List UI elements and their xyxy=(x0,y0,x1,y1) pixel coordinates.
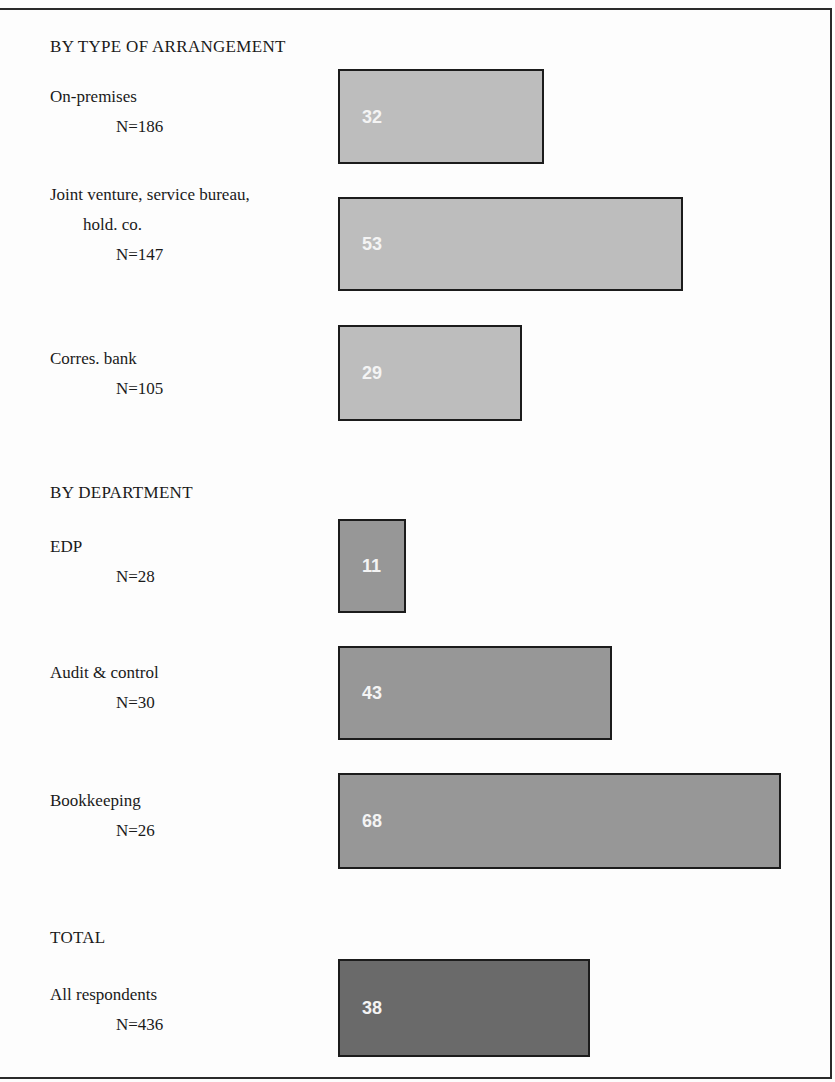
bar-value: 11 xyxy=(362,556,381,577)
category-label: On-premises xyxy=(50,87,137,106)
bar-joint-venture: 53 xyxy=(338,197,683,291)
bar-bookkeeping: 68 xyxy=(338,773,781,869)
category-label-line2: hold. co. xyxy=(50,210,250,240)
section-title-arrangement: BY TYPE OF ARRANGEMENT xyxy=(50,37,286,57)
bar-value: 68 xyxy=(362,811,382,832)
sample-size: N=186 xyxy=(50,112,163,142)
bar-corres-bank: 29 xyxy=(338,325,522,421)
bar-value: 32 xyxy=(362,106,382,127)
bar-edp: 11 xyxy=(338,519,406,613)
row-label-edp: EDP N=28 xyxy=(50,532,155,592)
section-title-department: BY DEPARTMENT xyxy=(50,483,193,503)
sample-size: N=28 xyxy=(50,562,155,592)
category-label: Corres. bank xyxy=(50,349,137,368)
bar-value: 43 xyxy=(362,683,382,704)
category-label: Audit & control xyxy=(50,663,159,682)
row-label-bookkeeping: Bookkeeping N=26 xyxy=(50,786,155,846)
bar-value: 29 xyxy=(362,363,382,384)
category-label: EDP xyxy=(50,537,82,556)
bar-on-premises: 32 xyxy=(338,69,544,164)
section-title-total: TOTAL xyxy=(50,928,106,948)
sample-size: N=105 xyxy=(50,374,163,404)
sample-size: N=26 xyxy=(50,816,155,846)
bar-value: 53 xyxy=(362,234,382,255)
bar-value: 38 xyxy=(362,998,382,1019)
category-label: Joint venture, service bureau, xyxy=(50,185,250,204)
category-label: All respondents xyxy=(50,985,157,1004)
bar-audit-control: 43 xyxy=(338,646,612,740)
sample-size: N=147 xyxy=(50,240,250,270)
category-label: Bookkeeping xyxy=(50,791,141,810)
sample-size: N=436 xyxy=(50,1010,163,1040)
row-label-on-premises: On-premises N=186 xyxy=(50,82,163,142)
row-label-joint-venture: Joint venture, service bureau, hold. co.… xyxy=(50,180,250,270)
row-label-all-respondents: All respondents N=436 xyxy=(50,980,163,1040)
bar-all-respondents: 38 xyxy=(338,959,590,1057)
row-label-audit-control: Audit & control N=30 xyxy=(50,658,159,718)
row-label-corres-bank: Corres. bank N=105 xyxy=(50,344,163,404)
sample-size: N=30 xyxy=(50,688,159,718)
